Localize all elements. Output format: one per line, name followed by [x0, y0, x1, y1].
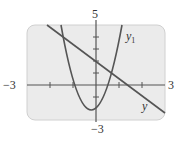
curve-label-y1: y1 — [126, 30, 135, 45]
curve-label-y2: y — [142, 100, 147, 112]
y-min-label: −3 — [91, 123, 104, 135]
x-max-label: 3 — [168, 79, 174, 91]
x-min-label: −3 — [3, 79, 16, 91]
y-max-label: 5 — [92, 8, 98, 20]
